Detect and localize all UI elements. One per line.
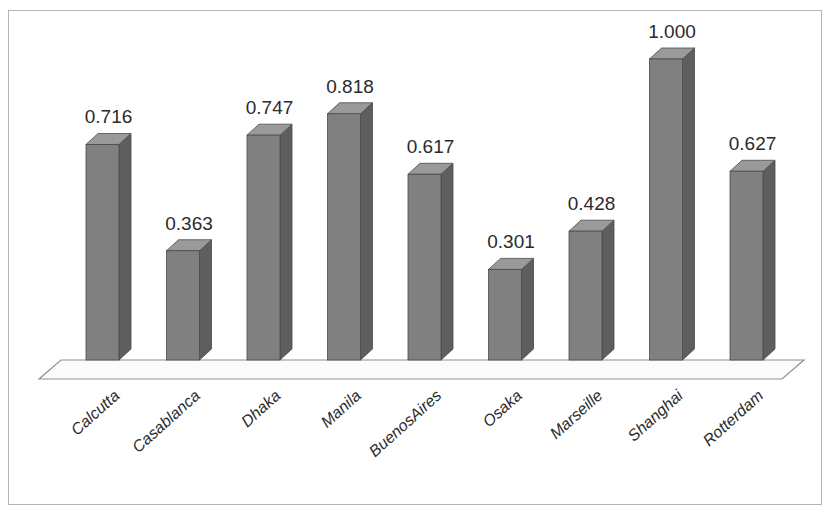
- bar-front-face: [650, 59, 683, 360]
- bar-value-label: 0.716: [85, 106, 133, 127]
- bar-front-face: [86, 144, 119, 360]
- bar-value-label: 0.363: [165, 213, 213, 234]
- bar-column: [489, 258, 534, 360]
- chart-floor-3d: [39, 360, 804, 379]
- bars-group: [86, 48, 775, 360]
- bar-value-label: 0.818: [326, 76, 374, 97]
- bar-side-face: [119, 133, 131, 360]
- category-label: Rotterdam: [700, 387, 767, 450]
- bar-front-face: [408, 174, 441, 360]
- bar-side-face: [200, 240, 212, 360]
- category-label: BuenosAires: [366, 387, 445, 460]
- bar-side-face: [763, 160, 775, 360]
- category-label: Osaka: [479, 387, 525, 431]
- bar-side-face: [361, 103, 373, 360]
- bar-value-label: 0.747: [246, 97, 294, 118]
- bar-front-face: [730, 171, 763, 360]
- bar-value-label: 0.617: [407, 136, 455, 157]
- category-label: Dhaka: [238, 387, 284, 431]
- bar-column: [247, 124, 292, 360]
- bar-value-label: 0.301: [487, 231, 535, 252]
- bar-chart-canvas: 0.7160.3630.7470.8180.6170.3010.4281.000…: [9, 11, 821, 504]
- bar-column: [167, 240, 212, 360]
- bar-front-face: [167, 251, 200, 360]
- bar-front-face: [489, 269, 522, 360]
- bar-value-label: 0.627: [729, 133, 777, 154]
- bar-side-face: [441, 163, 453, 360]
- bar-column: [730, 160, 775, 360]
- bar-column: [86, 133, 131, 360]
- bar-front-face: [328, 114, 361, 360]
- bar-side-face: [522, 258, 534, 360]
- floor-slab: [39, 360, 804, 379]
- category-label: Marseille: [547, 387, 606, 443]
- bar-value-label: 0.428: [568, 193, 616, 214]
- bar-side-face: [280, 124, 292, 360]
- category-label: Calcutta: [68, 387, 123, 439]
- bar-column: [408, 163, 453, 360]
- screenshot-root: 0.7160.3630.7470.8180.6170.3010.4281.000…: [0, 0, 836, 522]
- category-label: Shanghai: [624, 386, 686, 444]
- category-label: Casablanca: [129, 387, 203, 456]
- bar-front-face: [247, 135, 280, 360]
- bar-column: [569, 220, 614, 360]
- bar-side-face: [602, 220, 614, 360]
- category-label: Manila: [318, 387, 364, 431]
- category-labels-group: CalcuttaCasablancaDhakaManilaBuenosAires…: [68, 386, 767, 460]
- bar-column: [650, 48, 695, 360]
- bar-column: [328, 103, 373, 360]
- bar-value-label: 1.000: [648, 21, 696, 42]
- chart-outer-border: 0.7160.3630.7470.8180.6170.3010.4281.000…: [8, 10, 822, 505]
- bar-front-face: [569, 231, 602, 360]
- bar-side-face: [683, 48, 695, 360]
